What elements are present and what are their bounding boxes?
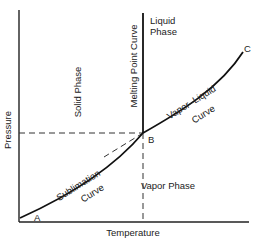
- melting-point-curve-label: Melting Point Curve: [128, 25, 139, 108]
- liquid-phase-label-line2: Phase: [150, 26, 177, 37]
- point-c-label: C: [244, 43, 251, 54]
- x-axis-label: Temperature: [106, 227, 159, 238]
- y-axis-label: Pressure: [2, 111, 13, 149]
- liquid-phase-label-line1: Liquid: [150, 15, 175, 26]
- vapor-phase-label: Vapor Phase: [141, 180, 195, 191]
- point-a-label: A: [34, 212, 41, 223]
- solid-phase-label: Solid Phase: [72, 67, 83, 118]
- phase-diagram: A B C Temperature Pressure Solid Phase L…: [0, 0, 256, 240]
- point-b-label: B: [148, 134, 154, 145]
